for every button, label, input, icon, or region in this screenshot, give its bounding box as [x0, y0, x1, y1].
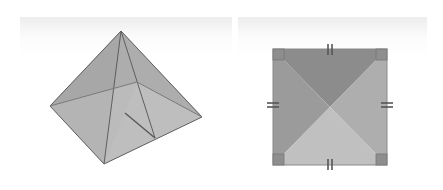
- right-angle-marker: [273, 154, 284, 165]
- right-angle-marker: [376, 49, 387, 60]
- right-angle-marker: [376, 154, 387, 165]
- right-angle-marker: [273, 49, 284, 60]
- square-base: [267, 44, 393, 170]
- geometry-figure: [0, 0, 443, 190]
- pyramid: [50, 31, 202, 164]
